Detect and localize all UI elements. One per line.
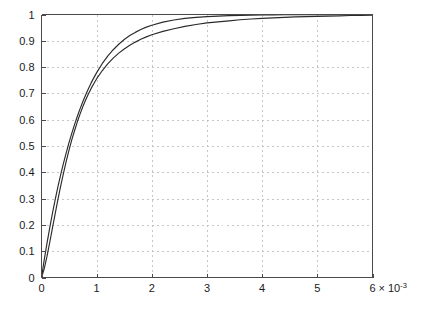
grid-lines xyxy=(42,15,373,278)
x-axis-exponent-label: × 10-3 xyxy=(379,281,407,294)
axis-frame xyxy=(42,15,373,278)
x-tick-label: 0 xyxy=(38,282,44,294)
chart-plot: 0123456 00.10.20.30.40.50.60.70.80.91 × … xyxy=(0,0,423,311)
y-tick-label: 0 xyxy=(28,272,34,284)
axis-line-left-bottom xyxy=(42,15,373,278)
x-tick-label: 5 xyxy=(314,282,320,294)
y-tick-label: 0.8 xyxy=(19,61,34,73)
data-curve-curve-1 xyxy=(42,15,373,278)
x-axis-exponent-label: × 10-3 xyxy=(379,281,407,294)
x-tick-label: 6 xyxy=(369,282,375,294)
y-tick-label: 0.7 xyxy=(19,87,34,99)
y-tick-label: 0.6 xyxy=(19,114,34,126)
y-tick-label: 0.4 xyxy=(19,166,34,178)
figure-container: 0123456 00.10.20.30.40.50.60.70.80.91 × … xyxy=(0,0,423,311)
x-tick-label: 1 xyxy=(94,282,100,294)
x-axis-tick-labels: 0123456 xyxy=(38,282,375,294)
x-tick-label: 3 xyxy=(204,282,210,294)
y-tick-label: 0.5 xyxy=(19,140,34,152)
y-tick-label: 1 xyxy=(28,9,34,21)
y-tick-label: 0.9 xyxy=(19,35,34,47)
y-tick-label: 0.3 xyxy=(19,193,34,205)
y-tick-label: 0.2 xyxy=(19,219,34,231)
y-tick-label: 0.1 xyxy=(19,245,34,257)
x-tick-label: 2 xyxy=(149,282,155,294)
data-curves xyxy=(42,15,373,278)
y-axis-tick-labels: 00.10.20.30.40.50.60.70.80.91 xyxy=(19,9,34,284)
x-tick-label: 4 xyxy=(259,282,265,294)
